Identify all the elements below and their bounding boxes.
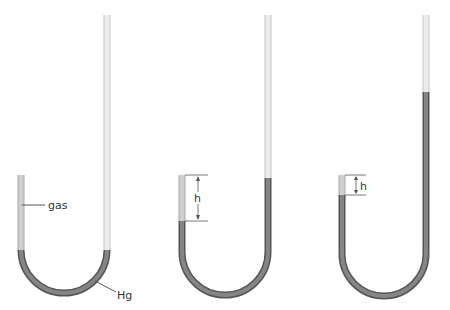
tube-1: [21, 15, 107, 293]
gas-label: gas: [48, 199, 68, 212]
height-indicator-2: h: [345, 175, 367, 195]
height-indicator-1: h: [185, 175, 208, 221]
mercury-label-group: Hg: [95, 281, 132, 302]
manometer-diagram: gas Hg h h: [0, 0, 450, 310]
height-label-2: h: [360, 180, 367, 193]
height-label-1: h: [194, 192, 201, 205]
tube-2: [182, 15, 268, 295]
tube-3: [342, 15, 426, 296]
mercury-leader-line: [95, 281, 116, 292]
gas-label-group: gas: [22, 199, 68, 212]
mercury-label: Hg: [117, 289, 132, 302]
